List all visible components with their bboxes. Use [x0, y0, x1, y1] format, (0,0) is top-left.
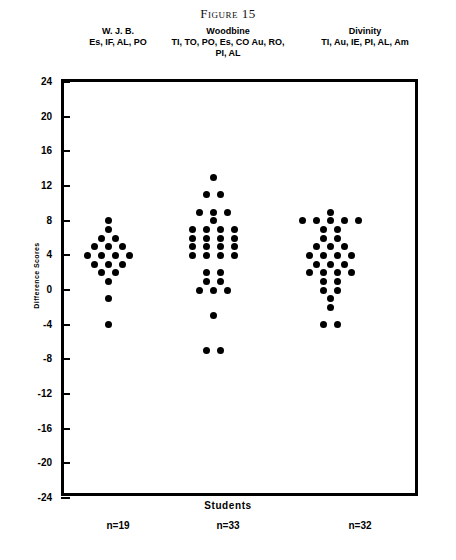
- y-axis-label: 24: [18, 77, 52, 87]
- data-point: [203, 226, 210, 233]
- group-header-divinity: Divinity TI, Au, IE, PI, AL, Am: [300, 26, 430, 48]
- data-point: [105, 321, 112, 328]
- group-codes-divinity: TI, Au, IE, PI, AL, Am: [300, 37, 430, 48]
- data-point: [231, 243, 238, 250]
- y-axis-tick: [61, 116, 70, 118]
- data-point: [334, 269, 341, 276]
- data-point: [299, 217, 306, 224]
- data-point: [348, 252, 355, 259]
- y-axis-title: Difference Scores: [33, 216, 40, 336]
- data-point: [203, 278, 210, 285]
- data-point: [313, 217, 320, 224]
- data-point: [98, 269, 105, 276]
- data-point: [105, 217, 112, 224]
- y-axis-tick: [61, 358, 70, 360]
- data-point: [224, 209, 231, 216]
- sample-size-wjb: n=19: [68, 520, 168, 531]
- data-point: [217, 191, 224, 198]
- sample-size-divinity: n=32: [310, 520, 410, 531]
- data-point: [203, 235, 210, 242]
- y-axis-tick: [61, 289, 70, 291]
- group-name-wjb: W. J. B.: [58, 26, 178, 37]
- data-point: [231, 226, 238, 233]
- y-axis-label: 16: [18, 146, 52, 156]
- data-point: [91, 261, 98, 268]
- data-point: [189, 235, 196, 242]
- data-point: [320, 278, 327, 285]
- data-point: [105, 278, 112, 285]
- data-point: [203, 252, 210, 259]
- data-point: [84, 252, 91, 259]
- data-point: [334, 235, 341, 242]
- data-point: [341, 261, 348, 268]
- data-point: [119, 243, 126, 250]
- group-name-divinity: Divinity: [300, 26, 430, 37]
- group-header-wjb: W. J. B. Es, IF, AL, PO: [58, 26, 178, 48]
- data-point: [327, 217, 334, 224]
- data-point: [210, 209, 217, 216]
- y-axis-tick: [61, 462, 70, 464]
- data-point: [217, 278, 224, 285]
- data-point: [203, 243, 210, 250]
- data-point: [320, 269, 327, 276]
- data-point: [217, 226, 224, 233]
- data-point: [189, 252, 196, 259]
- group-header-woodbine: Woodbine TI, TO, PO, Es, CO Au, RO, PI, …: [166, 26, 290, 59]
- data-point: [320, 287, 327, 294]
- y-axis-label: 20: [18, 112, 52, 122]
- y-axis-tick: [61, 324, 70, 326]
- data-point: [327, 304, 334, 311]
- y-axis-label: -8: [18, 354, 52, 364]
- y-axis-tick: [61, 220, 70, 222]
- data-point: [217, 252, 224, 259]
- data-point: [203, 269, 210, 276]
- data-point: [231, 235, 238, 242]
- data-point: [341, 217, 348, 224]
- group-codes-woodbine: TI, TO, PO, Es, CO Au, RO, PI, AL: [166, 37, 290, 59]
- data-point: [320, 252, 327, 259]
- data-point: [196, 287, 203, 294]
- sample-size-woodbine: n=33: [178, 520, 278, 531]
- data-point: [334, 252, 341, 259]
- data-point: [313, 261, 320, 268]
- group-name-woodbine: Woodbine: [166, 26, 290, 37]
- data-point: [105, 295, 112, 302]
- y-axis-label: -16: [18, 424, 52, 434]
- y-axis-tick: [61, 497, 70, 499]
- y-axis-tick: [61, 185, 70, 187]
- data-point: [196, 209, 203, 216]
- data-point: [189, 226, 196, 233]
- data-point: [327, 261, 334, 268]
- data-point: [98, 235, 105, 242]
- data-point: [217, 269, 224, 276]
- data-point: [313, 243, 320, 250]
- data-point: [320, 226, 327, 233]
- data-point: [210, 174, 217, 181]
- data-point: [217, 235, 224, 242]
- group-codes-wjb: Es, IF, AL, PO: [58, 37, 178, 48]
- data-point: [334, 226, 341, 233]
- y-axis-label: 12: [18, 181, 52, 191]
- figure-title: Figure 15: [0, 6, 456, 22]
- data-point: [203, 347, 210, 354]
- data-point: [224, 287, 231, 294]
- y-axis-tick: [61, 254, 70, 256]
- y-axis-tick: [61, 428, 70, 430]
- data-point: [189, 243, 196, 250]
- data-point: [334, 278, 341, 285]
- data-point: [306, 269, 313, 276]
- data-point: [203, 191, 210, 198]
- data-point: [355, 217, 362, 224]
- data-point: [327, 295, 334, 302]
- data-point: [348, 269, 355, 276]
- y-axis-tick: [61, 81, 70, 83]
- data-point: [112, 235, 119, 242]
- data-point: [320, 321, 327, 328]
- data-point: [105, 243, 112, 250]
- x-axis-title: Students: [0, 500, 456, 511]
- data-point: [231, 252, 238, 259]
- data-point: [91, 243, 98, 250]
- data-point: [112, 252, 119, 259]
- data-point: [210, 287, 217, 294]
- data-point: [341, 243, 348, 250]
